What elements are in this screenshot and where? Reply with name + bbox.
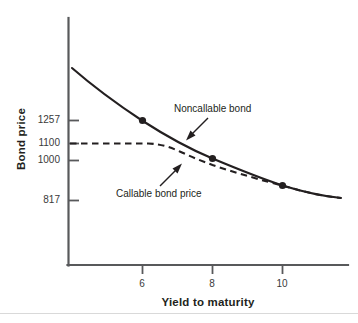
noncallable-annotation-arrow (186, 118, 208, 141)
callable-bond-price-annotation: Callable bond price (116, 188, 202, 199)
data-point-marker (139, 117, 146, 124)
x-tick-label-10: 10 (270, 278, 294, 289)
callable-annotation-arrow (160, 164, 182, 187)
x-tick-label-8: 8 (200, 278, 224, 289)
footer-divider (0, 313, 358, 314)
x-tick-label-6: 6 (130, 278, 154, 289)
y-tick-label-1257: 1257 (18, 114, 60, 125)
noncallable-bond-curve (72, 68, 341, 198)
noncallable-bond-annotation: Noncallable bond (174, 103, 251, 114)
data-point-marker (279, 182, 286, 189)
y-tick-label-817: 817 (18, 194, 60, 205)
bond-price-chart-figure: Bond price Yield to maturity 1257 1100 1… (0, 0, 358, 323)
x-axis-title: Yield to maturity (68, 296, 348, 308)
data-point-marker (209, 155, 216, 162)
y-tick-label-1100: 1100 (18, 137, 60, 148)
y-tick-label-1000: 1000 (18, 154, 60, 165)
